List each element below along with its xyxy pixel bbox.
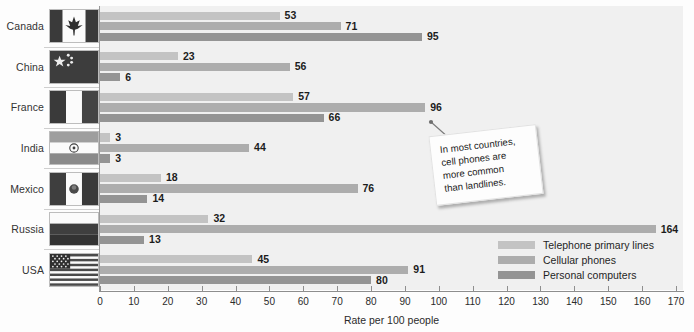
x-tick-mark (269, 286, 270, 292)
legend-swatch (498, 271, 535, 279)
x-tick-mark (168, 286, 169, 292)
x-tick-label: 10 (128, 296, 139, 307)
x-tick-mark (608, 286, 609, 292)
x-tick-label: 170 (668, 296, 685, 307)
legend-label: Cellular phones (543, 254, 616, 266)
x-tick-mark (574, 286, 575, 292)
x-tick-label: 90 (399, 296, 410, 307)
x-tick-mark (337, 286, 338, 292)
x-tick-mark (236, 286, 237, 292)
x-tick-mark (134, 286, 135, 292)
x-tick-label: 140 (566, 296, 583, 307)
x-tick-mark (540, 286, 541, 292)
x-tick-label: 50 (264, 296, 275, 307)
x-tick-mark (439, 286, 440, 292)
x-tick-mark (371, 286, 372, 292)
x-tick-label: 120 (498, 296, 515, 307)
legend-item-0: Telephone primary lines (498, 238, 684, 251)
x-tick-label: 150 (600, 296, 617, 307)
x-tick-label: 0 (97, 296, 103, 307)
legend-item-2: Personal computers (498, 268, 684, 281)
x-tick-mark (405, 286, 406, 292)
x-tick-label: 60 (298, 296, 309, 307)
legend: Telephone primary linesCellular phonesPe… (498, 238, 684, 283)
x-tick-label: 40 (230, 296, 241, 307)
x-tick-mark (473, 286, 474, 292)
legend-item-1: Cellular phones (498, 253, 684, 266)
legend-label: Telephone primary lines (543, 239, 654, 251)
bar-chart: Canada China France India Mexico (0, 0, 694, 332)
callout-note: In most countries, cell phones are more … (428, 124, 543, 206)
legend-swatch (498, 241, 535, 249)
x-axis-title: Rate per 100 people (100, 314, 683, 326)
x-tick-mark (100, 286, 101, 292)
legend-label: Personal computers (543, 269, 636, 281)
x-tick-label: 100 (430, 296, 447, 307)
x-tick-mark (642, 286, 643, 292)
x-tick-mark (507, 286, 508, 292)
x-tick-mark (676, 286, 677, 292)
x-tick-label: 80 (365, 296, 376, 307)
x-tick-label: 20 (162, 296, 173, 307)
x-tick-mark (303, 286, 304, 292)
x-tick-label: 110 (465, 296, 481, 307)
x-tick-label: 70 (332, 296, 343, 307)
x-tick-label: 160 (634, 296, 651, 307)
legend-swatch (498, 256, 535, 264)
x-tick-mark (202, 286, 203, 292)
x-tick-label: 130 (532, 296, 549, 307)
x-tick-label: 30 (196, 296, 207, 307)
